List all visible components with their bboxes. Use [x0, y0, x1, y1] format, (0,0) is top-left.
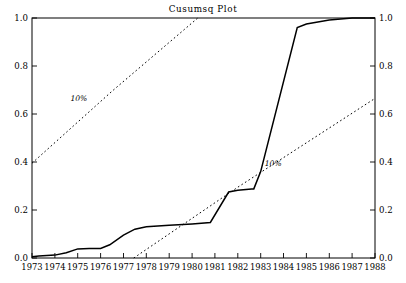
y-label-right-1: 0.2 [379, 205, 393, 215]
x-label-14: 1987 [341, 262, 362, 272]
y-axis-right-labels: 0.0 0.2 0.4 0.6 0.8 1.0 [379, 13, 393, 263]
y-label-right-3: 0.6 [379, 109, 393, 119]
x-label-15: 1988 [364, 262, 385, 272]
x-label-2: 1975 [67, 262, 88, 272]
upper-significance-bound-line [32, 18, 198, 163]
x-label-6: 1979 [159, 262, 180, 272]
x-label-7: 1980 [181, 262, 202, 272]
chart-title: Cusumsq Plot [169, 4, 238, 14]
x-label-5: 1978 [136, 262, 157, 272]
plot-frame [32, 18, 375, 258]
lower-bound-annotation-label: 10% [265, 159, 282, 168]
upper-bound-annotation-label: 10% [70, 94, 87, 103]
x-label-13: 1986 [319, 262, 340, 272]
x-label-11: 1984 [273, 262, 294, 272]
x-label-3: 1976 [90, 262, 111, 272]
y-label-left-1: 0.2 [14, 205, 28, 215]
chart-svg: Cusumsq Plot 0.0 0.2 0.4 0.6 0.8 1.0 [0, 0, 406, 283]
y-label-left-2: 0.4 [14, 157, 28, 167]
lower-significance-bound-line [134, 98, 375, 258]
cusumsq-data-curve [32, 18, 375, 257]
x-label-0: 1973 [21, 262, 42, 272]
y-label-left-3: 0.6 [14, 109, 28, 119]
y-label-right-4: 0.8 [379, 61, 393, 71]
y-axis-left-labels: 0.0 0.2 0.4 0.6 0.8 1.0 [14, 13, 28, 263]
y-axis-left-ticks [32, 18, 37, 258]
x-label-12: 1985 [296, 262, 317, 272]
x-label-1: 1974 [44, 262, 65, 272]
y-label-right-5: 1.0 [379, 13, 393, 23]
x-label-4: 1977 [113, 262, 134, 272]
x-axis-labels: 1973 1974 1975 1976 1977 1978 1979 1980 … [21, 262, 385, 272]
y-axis-right-ticks [370, 18, 375, 258]
y-label-left-5: 1.0 [14, 13, 28, 23]
cusumsq-plot-figure: Cusumsq Plot 0.0 0.2 0.4 0.6 0.8 1.0 [0, 0, 406, 283]
y-label-right-2: 0.4 [379, 157, 393, 167]
x-label-10: 1983 [250, 262, 271, 272]
x-label-9: 1982 [227, 262, 248, 272]
y-label-left-4: 0.8 [14, 61, 28, 71]
x-axis-ticks [32, 253, 375, 258]
x-label-8: 1981 [204, 262, 225, 272]
